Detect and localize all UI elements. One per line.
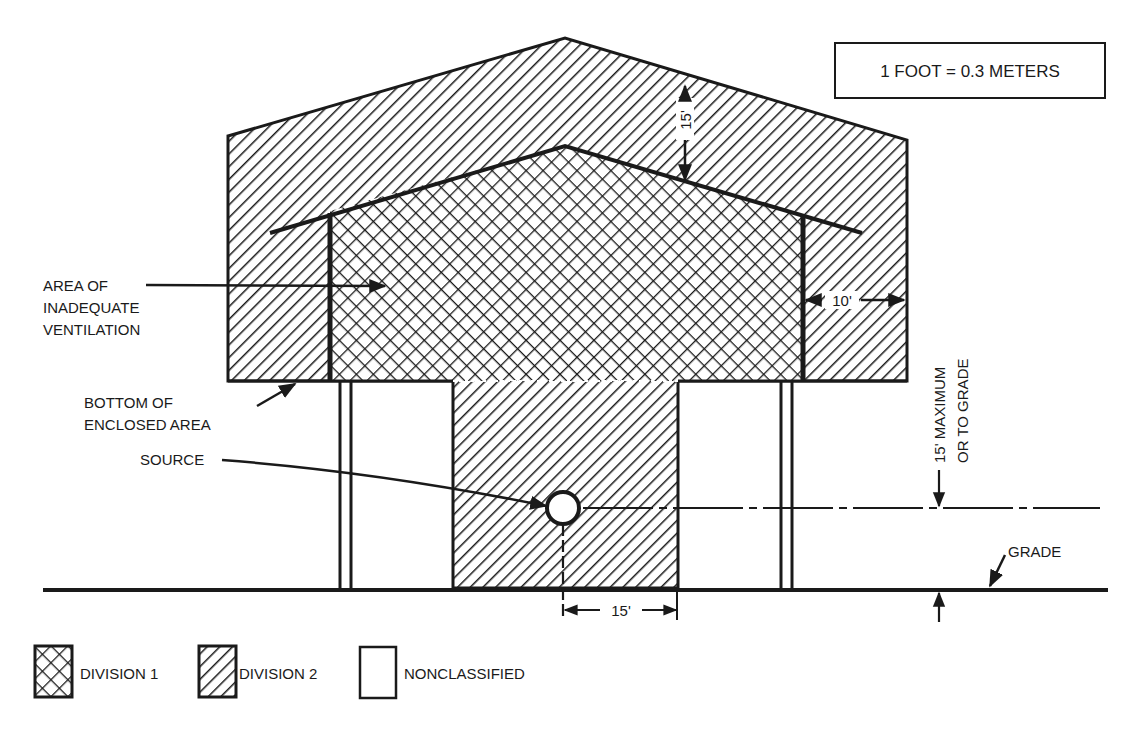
legend: DIVISION 1 DIVISION 2 NONCLASSIFIED: [35, 646, 525, 698]
svg-text:AREA OF: AREA OF: [43, 277, 108, 294]
svg-text:DIVISION 1: DIVISION 1: [80, 665, 158, 682]
svg-text:DIVISION 2: DIVISION 2: [239, 665, 317, 682]
svg-text:BOTTOM OF: BOTTOM OF: [84, 394, 173, 411]
source-point: [547, 492, 579, 524]
dimension-15ft-maximum: 15' MAXIMUM OR TO GRADE: [931, 359, 971, 622]
svg-text:SOURCE: SOURCE: [140, 451, 204, 468]
diagonal-hatch-swatch-icon: [199, 646, 236, 697]
svg-text:10': 10': [832, 292, 852, 309]
hazardous-area-classification-diagram: 15' 15' 10' 15' MAXIMUM OR TO GRADE 1 FO…: [0, 0, 1147, 736]
blank-swatch-icon: [360, 647, 396, 698]
svg-text:VENTILATION: VENTILATION: [43, 321, 140, 338]
svg-text:OR TO GRADE: OR TO GRADE: [954, 359, 971, 463]
crosshatch-swatch-icon: [35, 646, 72, 697]
svg-text:15': 15': [677, 110, 694, 130]
legend-item-division-1: DIVISION 1: [35, 646, 158, 697]
scale-note: 1 FOOT = 0.3 METERS: [835, 43, 1105, 98]
svg-text:ENCLOSED AREA: ENCLOSED AREA: [84, 416, 211, 433]
label-grade: GRADE: [990, 543, 1061, 586]
svg-text:NONCLASSIFIED: NONCLASSIFIED: [404, 665, 525, 682]
svg-text:1 FOOT = 0.3 METERS: 1 FOOT = 0.3 METERS: [880, 62, 1060, 81]
dimension-horizontal-15ft: 15': [565, 592, 677, 620]
svg-text:INADEQUATE: INADEQUATE: [43, 299, 139, 316]
legend-item-division-2: DIVISION 2: [199, 646, 317, 697]
label-bottom-enclosed-area: BOTTOM OF ENCLOSED AREA: [84, 384, 295, 433]
legend-item-nonclassified: NONCLASSIFIED: [360, 647, 525, 698]
svg-text:GRADE: GRADE: [1008, 543, 1061, 560]
svg-text:15' MAXIMUM: 15' MAXIMUM: [931, 367, 948, 463]
svg-text:15': 15': [611, 602, 631, 619]
